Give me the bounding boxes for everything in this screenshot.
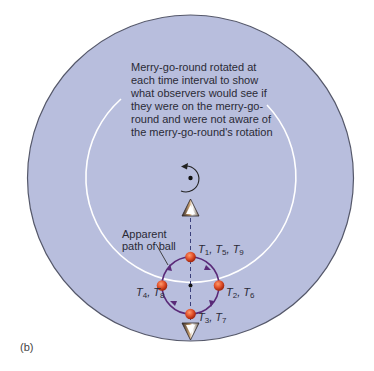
caption-line: what observers would see if <box>131 87 291 100</box>
caption-line: round and were not aware of <box>131 113 291 126</box>
panel-label: (b) <box>20 341 33 353</box>
ball-right <box>214 280 225 291</box>
path-label-line: path of ball <box>122 240 176 252</box>
ball-bottom <box>185 309 196 320</box>
caption-line: they were on the merry-go- <box>131 100 291 113</box>
time-label-left: T4, T8 <box>136 286 165 302</box>
time-label-top: T1, T5, T9 <box>198 243 244 259</box>
apparent-path-label: Apparent path of ball <box>122 228 176 252</box>
caption-line: each time interval to show <box>131 74 291 87</box>
ball-top <box>185 252 196 263</box>
time-label-right: T2, T6 <box>226 286 255 302</box>
diagram-stage: Merry-go-round rotated at each time inte… <box>0 0 374 371</box>
caption-text: Merry-go-round rotated at each time inte… <box>131 61 291 139</box>
diagram-graphics <box>0 0 374 371</box>
path-label-line: Apparent <box>122 228 176 240</box>
caption-line: the merry-go-round's rotation <box>131 126 291 139</box>
time-label-bottom: T3, T7 <box>198 311 227 327</box>
path-center-dot <box>189 284 193 288</box>
caption-line: Merry-go-round rotated at <box>131 61 291 74</box>
